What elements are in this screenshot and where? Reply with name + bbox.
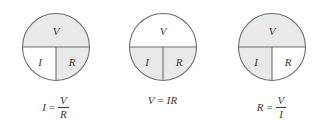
ohms-law-wheel-group-1: V I R I = V R	[1, 0, 110, 132]
formula1-lhs: I	[42, 102, 46, 113]
formula-solve-for-v: V = IR	[108, 95, 217, 106]
formula3-fraction: V I	[276, 95, 287, 120]
diagram-canvas: V I R I = V R	[0, 0, 327, 132]
formula1-numerator: V	[58, 95, 69, 107]
formula3-denominator: I	[277, 109, 285, 121]
formula1-denominator: R	[58, 109, 69, 121]
formula2-product: IR	[167, 95, 177, 106]
formula3-numerator: V	[276, 95, 287, 107]
ohms-law-wheel-solve-for-r: V I R	[237, 12, 307, 82]
ohms-law-wheel-group-3: V I R R = V I	[217, 0, 326, 132]
formula3-equals: =	[265, 102, 273, 113]
ohms-law-wheel-solve-for-i: V I R	[21, 12, 91, 82]
formula1-equals: =	[48, 102, 56, 113]
formula1-fraction: V R	[58, 95, 69, 120]
ohms-law-wheel-group-2: V I R V = IR	[108, 0, 217, 132]
wheel2-bottom-right-label: R	[174, 56, 182, 68]
formula-solve-for-r: R = V I	[217, 95, 326, 120]
wheel1-bottom-right-label: R	[67, 56, 75, 68]
formula2-equals: =	[157, 95, 165, 106]
ohms-law-wheel-solve-for-v: V I R	[128, 12, 198, 82]
formula3-lhs: R	[257, 102, 264, 113]
formula-solve-for-i: I = V R	[1, 95, 110, 120]
formula2-lhs: V	[148, 95, 155, 106]
wheel3-bottom-right-label: R	[283, 56, 291, 68]
